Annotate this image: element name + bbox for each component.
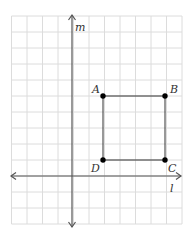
- grid: [12, 16, 183, 224]
- label-c: C: [168, 162, 177, 175]
- m-axis: [69, 15, 76, 227]
- label-b: B: [169, 83, 178, 96]
- point-c: [162, 157, 167, 162]
- label-l: l: [170, 182, 174, 195]
- point-d: [100, 157, 105, 162]
- label-m: m: [75, 21, 85, 34]
- point-a: [100, 93, 105, 98]
- point-b: [162, 93, 167, 98]
- coordinate-diagram: m l A B C D: [0, 0, 187, 233]
- label-a: A: [91, 83, 100, 96]
- label-d: D: [90, 162, 100, 175]
